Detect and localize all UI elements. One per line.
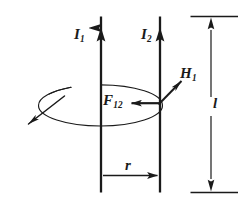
label-field-vector: H1 [180,66,196,81]
length-arrowhead-bottom [208,180,215,192]
label-current-1: I1 [74,27,85,42]
loop-direction-arrowhead [29,96,65,124]
conductor-2 [156,17,165,193]
field-vector [159,81,182,105]
label-current-2: I2 [141,27,152,42]
label-separation: r [125,158,131,173]
label-length: l [213,96,217,111]
label-force-vector: F12 [103,93,122,108]
physics-diagram: I1 I2 H1 F12 r l [0,0,243,204]
magnetic-field-loop [29,85,163,126]
length-arrowhead-top [208,18,215,30]
